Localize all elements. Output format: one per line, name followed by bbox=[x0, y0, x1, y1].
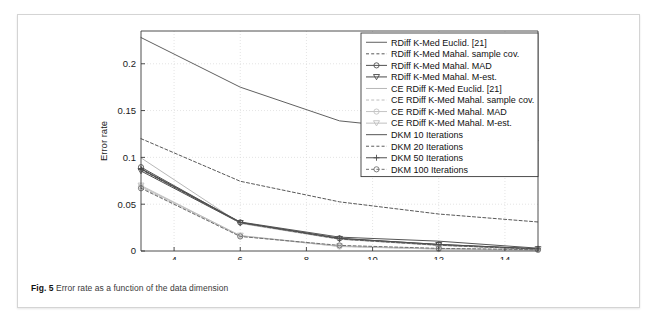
y-axis-tick-label: 0.15 bbox=[118, 105, 137, 116]
legend-label: RDiff K-Med Mahal. M-est. bbox=[391, 72, 497, 82]
x-axis-tick-label: 14 bbox=[500, 254, 511, 260]
y-axis-tick-label: 0.1 bbox=[123, 152, 136, 163]
legend-label: CE RDiff K-Med Mahal. sample cov. bbox=[391, 95, 534, 105]
figure-caption: Fig. 5 Error rate as a function of the d… bbox=[31, 283, 228, 293]
x-axis-tick-label: 4 bbox=[171, 254, 176, 260]
legend-label: RDiff K-Med Mahal. MAD bbox=[391, 61, 492, 71]
chart-plot-area: 46810121400.050.10.150.2 Dimension of da… bbox=[18, 15, 641, 260]
x-axis-tick-label: 8 bbox=[304, 254, 309, 260]
x-axis-tick-label: 12 bbox=[433, 254, 444, 260]
legend-label: CE RDiff K-Med Euclid. [21] bbox=[391, 84, 502, 94]
legend-label: RDiff K-Med Euclid. [21] bbox=[391, 38, 487, 48]
legend-label: CE RDiff K-Med Mahal. M-est. bbox=[391, 118, 512, 128]
series-10 bbox=[138, 166, 541, 252]
x-axis-tick-label: 6 bbox=[238, 254, 243, 260]
legend-label: DKM 20 Iterations bbox=[391, 142, 464, 152]
figure-card: 46810121400.050.10.150.2 Dimension of da… bbox=[17, 14, 640, 308]
legend-label: DKM 10 Iterations bbox=[391, 130, 464, 140]
y-axis-title: Error rate bbox=[98, 121, 109, 161]
error-rate-line-chart: 46810121400.050.10.150.2 Dimension of da… bbox=[18, 15, 641, 260]
legend-label: DKM 50 Iterations bbox=[391, 153, 464, 163]
figure-caption-label: Fig. 5 bbox=[31, 283, 54, 293]
chart-legend: RDiff K-Med Euclid. [21]RDiff K-Med Maha… bbox=[361, 33, 538, 177]
legend-label: CE RDiff K-Med Mahal. MAD bbox=[391, 107, 507, 117]
x-axis-tick-label: 10 bbox=[367, 254, 378, 260]
legend-label: DKM 100 Iterations bbox=[391, 165, 469, 175]
y-axis-tick-label: 0.2 bbox=[123, 58, 136, 69]
y-axis-tick-label: 0 bbox=[131, 245, 136, 256]
y-axis-tick-label: 0.05 bbox=[118, 199, 137, 210]
figure-caption-text: Error rate as a function of the data dim… bbox=[56, 283, 228, 293]
legend-label: RDiff K-Med Mahal. sample cov. bbox=[391, 49, 519, 59]
legend-item[interactable]: CE RDiff K-Med Mahal. sample cov. bbox=[366, 95, 534, 105]
